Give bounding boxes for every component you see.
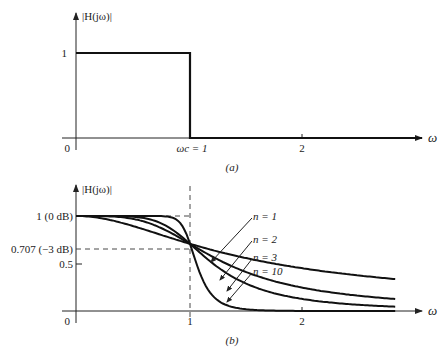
chart-b-xlabel: ω: [428, 303, 437, 318]
chart-a-xtick-2: 2: [299, 142, 305, 154]
chart-a-xtick-0: 0: [65, 142, 71, 154]
curve-n1: [76, 216, 395, 279]
pointer-n10: [227, 273, 252, 302]
chart-a-ytick-1: 1: [62, 47, 68, 59]
label-n2: n = 2: [253, 233, 277, 245]
chart-b-xtick-2: 2: [299, 315, 305, 327]
chart-b-ytick-05: 0.5: [59, 258, 73, 270]
chart-b: |H(jω)| 1 (0 dB) 0.707 (−3 dB) 0.5 0 1 2…: [11, 183, 437, 347]
chart-a-caption: (a): [226, 161, 239, 174]
label-n3: n = 3: [253, 251, 277, 263]
chart-b-ylabel: |H(jω)|: [82, 183, 112, 196]
chart-b-curves: [76, 216, 395, 311]
curve-n2: [76, 216, 395, 299]
chart-b-xtick-1: 1: [187, 315, 193, 327]
curve-n10: [76, 216, 395, 311]
chart-a-ylabel: |H(jω)|: [82, 10, 112, 23]
chart-b-xtick-0: 0: [65, 315, 71, 327]
chart-a-xtick-wc: ωc = 1: [176, 142, 207, 154]
label-n10: n = 10: [253, 265, 283, 277]
chart-a: |H(jω)| 1 0 ωc = 1 2 ω (a): [62, 10, 438, 174]
chart-b-ytick-0707: 0.707 (−3 dB): [11, 243, 73, 256]
chart-b-ytick-1: 1 (0 dB): [36, 210, 73, 223]
figure: |H(jω)| 1 0 ωc = 1 2 ω (a): [0, 0, 441, 355]
chart-b-caption: (b): [226, 334, 239, 347]
chart-a-ideal-response: [76, 53, 422, 138]
chart-a-xlabel: ω: [428, 130, 437, 145]
label-n1: n = 1: [253, 210, 277, 222]
